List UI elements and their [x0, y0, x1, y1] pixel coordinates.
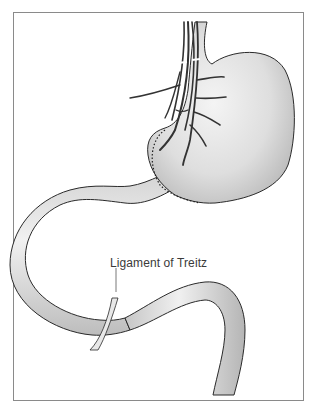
- stomach: [148, 22, 295, 203]
- ligament-of-treitz: [90, 268, 118, 350]
- ligament-of-treitz-label: Ligament of Treitz: [110, 256, 207, 270]
- anatomy-illustration: [0, 0, 313, 413]
